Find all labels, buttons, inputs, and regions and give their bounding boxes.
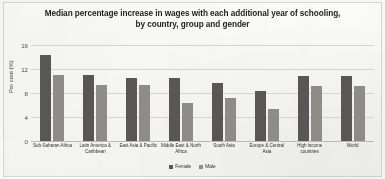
x-axis-tick-label: Latin America & Caribbean xyxy=(74,143,117,154)
x-axis-tick-label: Europe & Central Asia xyxy=(245,143,288,154)
bar-male[interactable] xyxy=(268,109,279,141)
legend-label: Female xyxy=(175,164,191,169)
bar-female[interactable] xyxy=(212,83,223,141)
bar-female[interactable] xyxy=(40,55,51,141)
bar-group xyxy=(203,45,246,141)
y-axis-tick-label: 4 xyxy=(25,114,28,121)
x-axis-tick-label: Middle East & North Africa xyxy=(160,143,203,154)
legend-swatch-icon xyxy=(169,165,173,169)
bar-group xyxy=(288,45,331,141)
bar-male[interactable] xyxy=(354,86,365,141)
chart-title-line-2: by country, group and gender xyxy=(18,20,367,31)
y-axis-label: Per cent (%) xyxy=(8,83,14,93)
bar-male[interactable] xyxy=(96,85,107,141)
bar-male[interactable] xyxy=(182,103,193,141)
chart-title: Median percentage increase in wages with… xyxy=(0,9,385,30)
bar-female[interactable] xyxy=(83,75,94,141)
y-axis-tick-label: 8 xyxy=(25,90,28,97)
y-axis-tick-label: 16 xyxy=(21,42,28,49)
chart-title-line-1: Median percentage increase in wages with… xyxy=(18,9,367,20)
bar-male[interactable] xyxy=(53,75,64,141)
legend-swatch-icon xyxy=(199,165,203,169)
gridline: 0 xyxy=(31,141,374,142)
bar-male[interactable] xyxy=(139,85,150,141)
x-axis-tick-label: High income countries xyxy=(288,143,331,154)
x-axis-tick-label: Sub-Saharan Africa xyxy=(31,143,74,154)
bar-female[interactable] xyxy=(255,91,266,141)
bar-group xyxy=(31,45,74,141)
chart-screenshot: Median percentage increase in wages with… xyxy=(0,0,385,179)
bar-group xyxy=(117,45,160,141)
chart-legend: FemaleMale xyxy=(0,164,385,169)
bar-female[interactable] xyxy=(298,76,309,141)
bar-female[interactable] xyxy=(126,78,137,141)
legend-item-female[interactable]: Female xyxy=(169,164,191,169)
legend-item-male[interactable]: Male xyxy=(199,164,215,169)
y-axis-tick-label: 12 xyxy=(21,66,28,73)
bar-group xyxy=(74,45,117,141)
bar-group xyxy=(331,45,374,141)
bar-group xyxy=(160,45,203,141)
bar-male[interactable] xyxy=(225,98,236,141)
bar-male[interactable] xyxy=(311,86,322,141)
x-axis-tick-label: East Asia & Pacific xyxy=(117,143,160,154)
x-axis-tick-label: World xyxy=(331,143,374,154)
x-axis-labels: Sub-Saharan AfricaLatin America & Caribb… xyxy=(31,143,374,154)
bar-series-container xyxy=(31,45,374,141)
bar-female[interactable] xyxy=(341,76,352,141)
plot-area: 0481216 xyxy=(31,45,374,141)
bar-group xyxy=(245,45,288,141)
bar-female[interactable] xyxy=(169,78,180,141)
legend-label: Male xyxy=(205,164,215,169)
y-axis-tick-label: 0 xyxy=(25,138,28,145)
x-axis-tick-label: South Asia xyxy=(203,143,246,154)
